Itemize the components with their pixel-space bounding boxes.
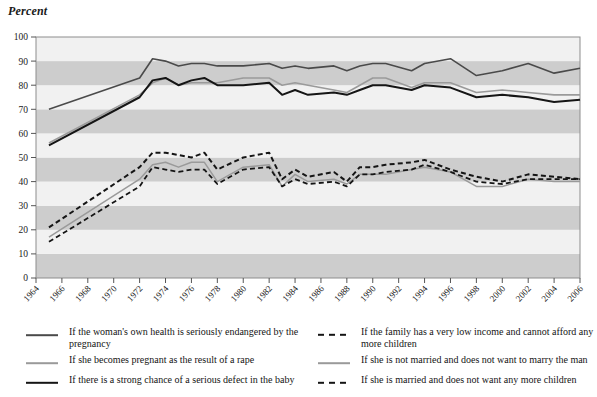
svg-text:1986: 1986 (306, 283, 326, 303)
svg-text:10: 10 (19, 249, 29, 259)
svg-text:1992: 1992 (384, 284, 404, 304)
legend-column-left: If the woman's own health is seriously e… (24, 326, 324, 394)
svg-text:2006: 2006 (565, 283, 585, 303)
legend-item-rape: If she becomes pregnant as the result of… (24, 354, 324, 369)
svg-text:20: 20 (19, 225, 29, 235)
y-axis-title: Percent (8, 4, 47, 19)
svg-text:90: 90 (19, 57, 29, 67)
svg-text:70: 70 (19, 105, 29, 115)
svg-text:1994: 1994 (410, 283, 430, 303)
svg-text:1984: 1984 (280, 283, 300, 303)
svg-text:80: 80 (19, 81, 29, 91)
svg-text:2000: 2000 (488, 283, 508, 303)
legend-item-health: If the woman's own health is seriously e… (24, 326, 324, 349)
svg-text:1974: 1974 (151, 283, 171, 303)
legend-label-defect: If there is a strong chance of a serious… (69, 374, 294, 386)
svg-text:2004: 2004 (539, 283, 559, 303)
svg-text:1966: 1966 (47, 283, 67, 303)
svg-text:1996: 1996 (436, 283, 456, 303)
chart-legend: If the woman's own health is seriously e… (0, 326, 597, 397)
legend-swatch-not-married (316, 357, 352, 369)
svg-text:0: 0 (23, 273, 28, 283)
svg-text:1976: 1976 (177, 283, 197, 303)
svg-text:1978: 1978 (203, 283, 223, 303)
legend-item-defect: If there is a strong chance of a serious… (24, 374, 324, 389)
svg-text:30: 30 (19, 201, 29, 211)
svg-text:1998: 1998 (462, 283, 482, 303)
line-chart-plot: 0102030405060708090100196419661968197019… (0, 0, 597, 326)
legend-swatch-married-no-more (316, 377, 352, 389)
svg-text:1988: 1988 (332, 283, 352, 303)
legend-label-not-married: If she is not married and does not want … (361, 354, 588, 366)
svg-text:50: 50 (19, 153, 29, 163)
legend-column-right: If the family has a very low income and … (316, 326, 597, 394)
legend-label-health: If the woman's own health is seriously e… (69, 326, 324, 349)
svg-text:40: 40 (19, 177, 29, 187)
legend-swatch-low-income (316, 329, 352, 341)
y-axis: 0102030405060708090100 (14, 32, 36, 283)
svg-text:1982: 1982 (255, 284, 275, 304)
legend-label-rape: If she becomes pregnant as the result of… (69, 354, 254, 366)
svg-text:1990: 1990 (358, 283, 378, 303)
svg-text:2002: 2002 (514, 284, 534, 304)
legend-swatch-health (24, 329, 60, 341)
x-axis: 1964196619681970197219741976197819801982… (21, 278, 585, 304)
svg-text:1980: 1980 (229, 283, 249, 303)
legend-swatch-rape (24, 357, 60, 369)
legend-label-low-income: If the family has a very low income and … (361, 326, 597, 349)
svg-text:60: 60 (19, 129, 29, 139)
legend-label-married-no-more: If she is married and does not want any … (361, 374, 577, 386)
svg-text:1968: 1968 (73, 283, 93, 303)
legend-item-not-married: If she is not married and does not want … (316, 354, 597, 369)
legend-item-married-no-more: If she is married and does not want any … (316, 374, 597, 389)
background-bands (36, 37, 580, 278)
svg-text:1964: 1964 (21, 283, 41, 303)
svg-text:1972: 1972 (125, 284, 145, 304)
legend-swatch-defect (24, 377, 60, 389)
legend-item-low-income: If the family has a very low income and … (316, 326, 597, 349)
svg-text:100: 100 (14, 32, 29, 42)
svg-text:1970: 1970 (99, 283, 119, 303)
